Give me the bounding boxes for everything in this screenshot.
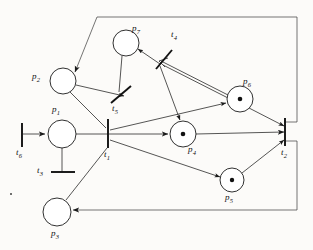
arc-t1-to-p6 — [110, 103, 226, 130]
arc-t4-to-p4 — [160, 66, 180, 120]
place-p6[interactable] — [227, 86, 253, 112]
label-p7: p7 — [132, 24, 140, 35]
label-p5: p5 — [225, 193, 233, 204]
place-p5[interactable] — [220, 168, 244, 192]
label-t5: t5 — [112, 104, 118, 115]
page-speck — [10, 193, 12, 195]
arc-t1-to-p5 — [110, 140, 220, 177]
arc-t2-to-p2-return — [75, 17, 297, 122]
label-p2: p2 — [32, 72, 40, 83]
label-t6: t6 — [16, 148, 22, 159]
arc-p7-to-t5 — [119, 56, 122, 92]
label-p3: p3 — [51, 229, 59, 240]
petri-net-figure: p1 p2 p3 p4 p5 p6 p7 t1 t2 t3 t4 t5 t6 — [0, 0, 313, 250]
place-p2[interactable] — [50, 68, 76, 94]
arc-p2-to-t1 — [70, 92, 106, 128]
label-p1: p1 — [52, 105, 60, 116]
label-t3: t3 — [37, 166, 43, 177]
label-p4: p4 — [188, 145, 196, 156]
token-p5 — [230, 178, 234, 182]
arc-t4-to-p7 — [138, 49, 160, 64]
label-p6: p6 — [243, 77, 251, 88]
label-t2: t2 — [281, 148, 287, 159]
token-p4 — [181, 132, 186, 137]
place-p1[interactable] — [48, 120, 76, 148]
arc-p6-to-t2 — [249, 108, 284, 126]
arc-p4-to-t2 — [196, 132, 284, 134]
arc-p5-to-t2 — [242, 140, 284, 173]
transition-t5[interactable] — [111, 86, 131, 103]
label-t1: t1 — [104, 150, 110, 161]
arc-p3-to-t1 — [66, 148, 107, 200]
petri-net-canvas — [0, 0, 313, 250]
place-p3[interactable] — [43, 198, 71, 226]
label-t4: t4 — [171, 30, 177, 41]
token-p6 — [238, 97, 243, 102]
arc-p2-to-t5 — [76, 85, 124, 96]
